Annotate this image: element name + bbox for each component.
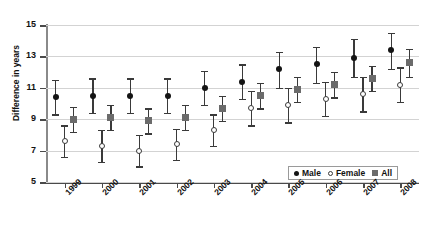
error-bar-cap bbox=[276, 88, 283, 89]
data-point-male bbox=[388, 47, 394, 53]
y-tick-mark bbox=[40, 119, 46, 121]
legend-item-female: Female bbox=[328, 168, 365, 178]
data-point-all bbox=[294, 86, 301, 93]
error-bar-cap bbox=[257, 83, 264, 84]
error-bar-cap bbox=[127, 113, 134, 114]
error-bar-cap bbox=[219, 121, 226, 122]
data-point-male bbox=[239, 79, 245, 85]
error-bar-cap bbox=[61, 157, 68, 158]
error-bar-cap bbox=[388, 69, 395, 70]
data-point-female bbox=[99, 143, 105, 149]
error-bar-cap bbox=[276, 52, 283, 53]
legend-label-female: Female bbox=[336, 168, 365, 178]
y-tick-label: 13 bbox=[14, 50, 36, 60]
y-tick-label: 15 bbox=[14, 19, 36, 29]
y-tick-mark bbox=[40, 25, 46, 27]
error-bar-cap bbox=[239, 64, 246, 65]
error-bar-cap bbox=[360, 111, 367, 112]
error-bar-cap bbox=[294, 102, 301, 103]
data-point-all bbox=[70, 116, 77, 123]
error-bar-cap bbox=[89, 113, 96, 114]
error-bar-cap bbox=[219, 96, 226, 97]
data-point-female bbox=[397, 82, 403, 88]
error-bar-cap bbox=[322, 82, 329, 83]
error-bar-cap bbox=[127, 78, 134, 79]
error-bar-cap bbox=[145, 108, 152, 109]
data-point-female bbox=[62, 138, 68, 144]
y-tick-mark bbox=[40, 56, 46, 58]
data-point-female bbox=[360, 91, 366, 97]
data-point-all bbox=[145, 117, 152, 124]
data-point-male bbox=[202, 85, 208, 91]
legend-label-male: Male bbox=[302, 168, 321, 178]
error-bar-cap bbox=[351, 39, 358, 40]
error-bar-cap bbox=[136, 166, 143, 167]
error-bar-cap bbox=[360, 77, 367, 78]
error-bar-cap bbox=[285, 122, 292, 123]
error-bar-cap bbox=[201, 71, 208, 72]
data-point-female bbox=[248, 105, 254, 111]
data-point-all bbox=[257, 92, 264, 99]
data-point-male bbox=[53, 94, 59, 100]
error-bar-cap bbox=[331, 97, 338, 98]
data-point-all bbox=[107, 114, 114, 121]
gridline bbox=[46, 25, 419, 26]
error-bar-cap bbox=[145, 133, 152, 134]
error-bar-cap bbox=[201, 105, 208, 106]
data-point-female bbox=[174, 141, 180, 147]
error-bar-cap bbox=[285, 88, 292, 89]
error-bar-cap bbox=[164, 78, 171, 79]
y-tick-mark bbox=[40, 88, 46, 90]
data-point-male bbox=[314, 61, 320, 67]
error-bar-cap bbox=[388, 33, 395, 34]
error-bar-cap bbox=[98, 130, 105, 131]
error-bar-cap bbox=[294, 77, 301, 78]
data-point-male bbox=[351, 55, 357, 61]
data-point-all bbox=[219, 105, 226, 112]
error-bar-cap bbox=[107, 105, 114, 106]
chart-legend: Male Female All bbox=[288, 166, 398, 180]
error-bar-cap bbox=[248, 91, 255, 92]
error-bar-cap bbox=[173, 160, 180, 161]
y-tick-label: 9 bbox=[14, 113, 36, 123]
error-bar-cap bbox=[331, 72, 338, 73]
error-bar-cap bbox=[397, 102, 404, 103]
error-bar-cap bbox=[210, 114, 217, 115]
data-point-male bbox=[165, 93, 171, 99]
error-bar-cap bbox=[52, 80, 59, 81]
data-point-male bbox=[127, 93, 133, 99]
y-tick-label: 7 bbox=[14, 145, 36, 155]
data-point-all bbox=[369, 75, 376, 82]
plot-area bbox=[46, 25, 419, 182]
gridline bbox=[46, 56, 419, 57]
error-bar-cap bbox=[70, 132, 77, 133]
error-bar-cap bbox=[210, 146, 217, 147]
filled-circle-icon bbox=[294, 171, 299, 176]
error-bar-cap bbox=[182, 105, 189, 106]
y-tick-mark bbox=[40, 151, 46, 153]
error-bar-cap bbox=[369, 66, 376, 67]
chart-figure: Difference in years Male Female All 5791… bbox=[0, 0, 426, 227]
data-point-female bbox=[211, 127, 217, 133]
error-bar-cap bbox=[406, 77, 413, 78]
error-bar-cap bbox=[173, 129, 180, 130]
error-bar-cap bbox=[107, 130, 114, 131]
error-bar-cap bbox=[406, 49, 413, 50]
error-bar-cap bbox=[52, 114, 59, 115]
error-bar-cap bbox=[98, 162, 105, 163]
error-bar-cap bbox=[369, 91, 376, 92]
error-bar-cap bbox=[70, 107, 77, 108]
data-point-male bbox=[276, 66, 282, 72]
open-circle-icon bbox=[328, 171, 333, 176]
error-bar-cap bbox=[239, 99, 246, 100]
data-point-female bbox=[323, 96, 329, 102]
data-point-female bbox=[285, 102, 291, 108]
error-bar-cap bbox=[164, 113, 171, 114]
data-point-male bbox=[90, 93, 96, 99]
error-bar-cap bbox=[248, 125, 255, 126]
error-bar-cap bbox=[257, 108, 264, 109]
error-bar-cap bbox=[313, 83, 320, 84]
filled-square-icon bbox=[372, 170, 378, 176]
error-bar-cap bbox=[182, 130, 189, 131]
error-bar-cap bbox=[89, 78, 96, 79]
